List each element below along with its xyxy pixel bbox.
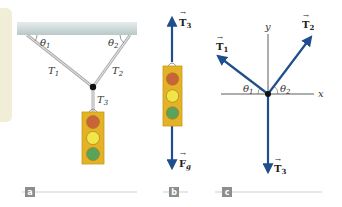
- traffic-light-b: [163, 63, 182, 126]
- angle-arc-theta1-c: [258, 88, 260, 94]
- vector-arrow-glyph: →: [180, 9, 186, 17]
- vector-arrow-glyph: →: [217, 34, 223, 42]
- label-fg-b: Fg: [179, 158, 191, 171]
- traffic-light-a: [82, 109, 104, 164]
- vector-arrow-glyph: →: [180, 150, 186, 158]
- angle-arc-theta2-c: [274, 86, 278, 94]
- knot-point: [90, 84, 96, 90]
- vector-arrow-glyph: →: [303, 12, 309, 20]
- label-t3-b: T3: [179, 17, 191, 30]
- label-t3-a: T3: [97, 94, 109, 107]
- panel-a: θ1 θ2 T1 T2 T3 a: [17, 22, 137, 197]
- panel-tag-b-label: b: [171, 188, 177, 197]
- label-t3-c: T3: [274, 163, 286, 176]
- origin-point: [265, 91, 271, 97]
- x-axis-label: x: [318, 88, 324, 99]
- label-t1-c: T1: [216, 41, 228, 54]
- panel-tag-a-label: a: [27, 188, 32, 197]
- panel-c: y x θ1 θ2 T1 → T2 → T3 → c: [215, 12, 324, 197]
- panel-tag-c-label: c: [225, 188, 230, 197]
- ceiling: [17, 22, 137, 35]
- label-theta2-a: θ2: [108, 37, 119, 50]
- panel-b: T3 → Fg → b: [163, 9, 191, 197]
- vector-t2-c: [268, 37, 311, 94]
- yellow-light: [87, 132, 100, 145]
- label-t2-c: T2: [302, 19, 314, 32]
- angle-arc-theta1: [35, 35, 37, 41]
- free-body-diagram-figure: θ1 θ2 T1 T2 T3 a T3 → Fg →: [0, 0, 342, 207]
- vector-arrow-glyph: →: [275, 156, 281, 164]
- green-light: [87, 148, 100, 161]
- y-axis-label: y: [264, 21, 271, 32]
- label-t1-a: T1: [48, 65, 59, 78]
- label-t2-a: T2: [112, 65, 124, 78]
- red-light: [87, 116, 100, 129]
